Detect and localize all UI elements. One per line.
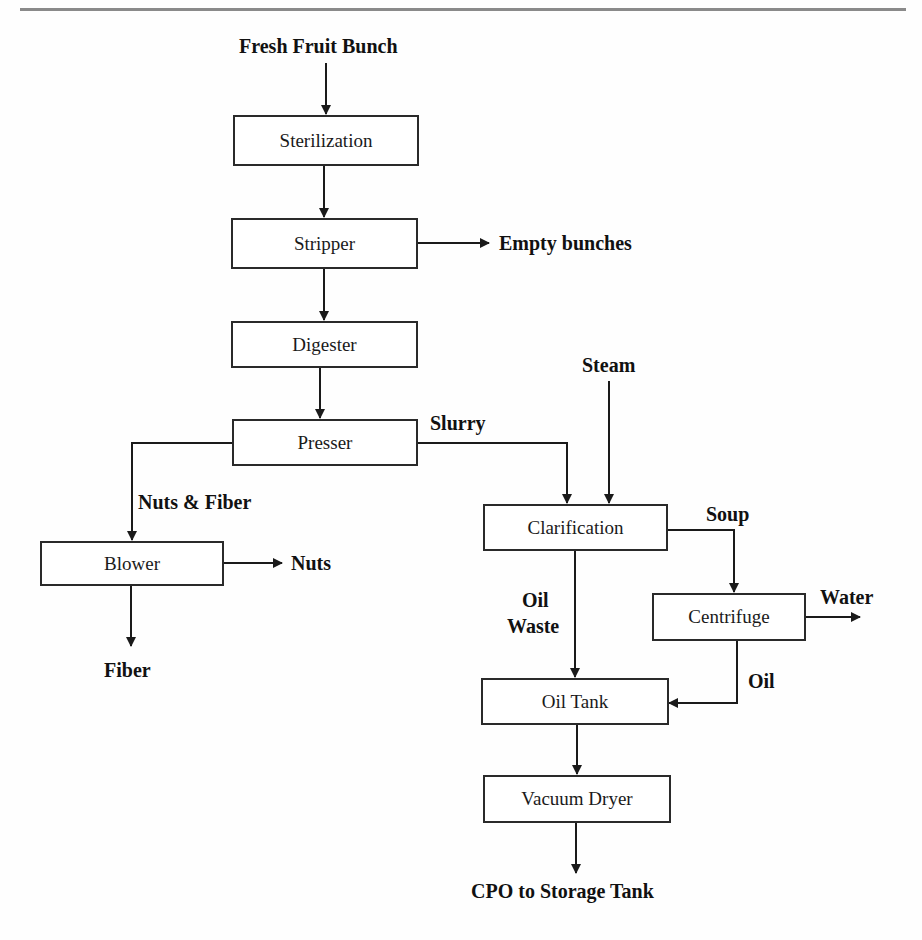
process-flow-diagram: Fresh Fruit Bunch Steam Sterilization St… (0, 0, 922, 940)
node-vacuum-dryer-label: Vacuum Dryer (521, 788, 632, 810)
output-nuts: Nuts (291, 552, 331, 574)
label-slurry: Slurry (430, 412, 486, 434)
label-nuts-fiber: Nuts & Fiber (138, 491, 251, 513)
node-blower: Blower (40, 541, 224, 586)
node-clarification-label: Clarification (527, 517, 623, 539)
node-stripper: Stripper (231, 218, 418, 269)
node-vacuum-dryer: Vacuum Dryer (483, 775, 671, 823)
node-digester: Digester (231, 321, 418, 368)
input-fresh-fruit-bunch: Fresh Fruit Bunch (239, 35, 398, 57)
node-sterilization: Sterilization (233, 115, 419, 166)
output-cpo-to-storage-tank: CPO to Storage Tank (471, 880, 654, 902)
input-steam: Steam (582, 354, 635, 376)
node-sterilization-label: Sterilization (280, 130, 373, 152)
node-blower-label: Blower (104, 553, 160, 575)
output-empty-bunches: Empty bunches (499, 232, 632, 254)
node-clarification: Clarification (483, 504, 668, 551)
node-stripper-label: Stripper (294, 233, 355, 255)
node-centrifuge: Centrifuge (652, 593, 806, 641)
output-water: Water (820, 586, 873, 608)
node-digester-label: Digester (292, 334, 356, 356)
node-oil-tank-label: Oil Tank (542, 691, 608, 713)
node-presser: Presser (232, 419, 418, 466)
label-soup: Soup (706, 503, 749, 525)
output-fiber: Fiber (104, 659, 151, 681)
connector-lines (0, 0, 922, 940)
node-centrifuge-label: Centrifuge (688, 606, 769, 628)
label-oil-waste-line2: Waste (507, 615, 559, 637)
node-oil-tank: Oil Tank (481, 678, 669, 725)
node-presser-label: Presser (298, 432, 353, 454)
label-oil-waste-line1: Oil (522, 589, 549, 611)
label-oil: Oil (748, 670, 775, 692)
